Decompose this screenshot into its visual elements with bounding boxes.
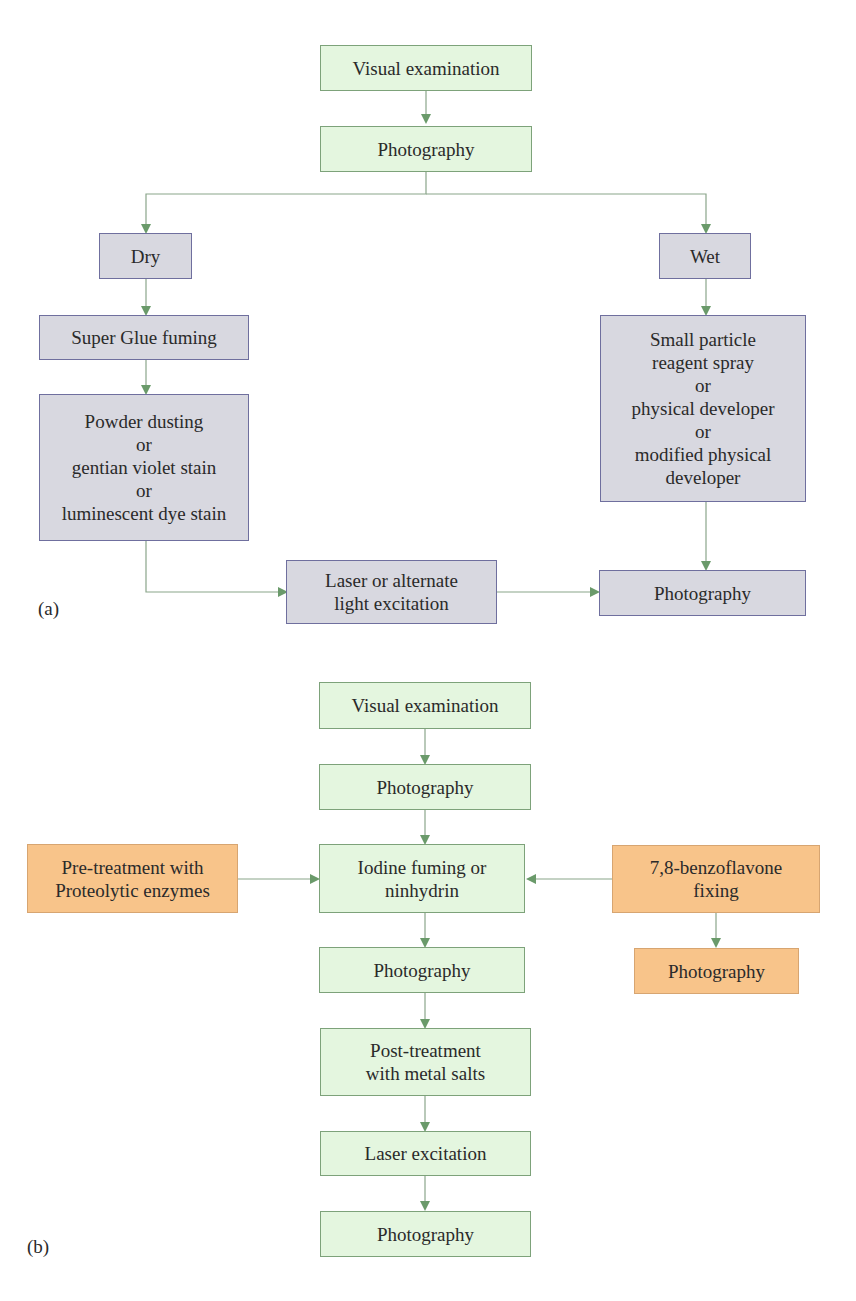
- node-post-treatment-metal-salts: Post-treatment with metal salts: [320, 1028, 531, 1096]
- panel-label-a: (a): [38, 598, 59, 620]
- node-wet: Wet: [659, 233, 751, 279]
- node-photography-orange: Photography: [634, 948, 799, 994]
- node-photography-a2: Photography: [599, 570, 806, 616]
- node-photography-b1: Photography: [319, 764, 531, 810]
- node-iodine-ninhydrin: Iodine fuming or ninhydrin: [319, 844, 525, 913]
- node-photography-b2: Photography: [319, 947, 525, 993]
- node-small-particle-reagent: Small particle reagent spray or physical…: [600, 315, 806, 502]
- node-photography-a1: Photography: [320, 126, 532, 172]
- node-laser-alternate-light: Laser or alternate light excitation: [286, 560, 497, 624]
- node-visual-examination-a: Visual examination: [320, 45, 532, 91]
- node-laser-excitation: Laser excitation: [320, 1131, 531, 1176]
- connectors: [0, 0, 856, 1301]
- node-benzoflavone-fixing: 7,8-benzoflavone fixing: [612, 845, 820, 913]
- panel-label-b: (b): [27, 1236, 49, 1258]
- node-pretreatment-proteolytic: Pre-treatment with Proteolytic enzymes: [27, 844, 238, 913]
- node-visual-examination-b: Visual examination: [319, 682, 531, 729]
- node-powder-dusting: Powder dusting or gentian violet stain o…: [39, 394, 249, 541]
- node-dry: Dry: [99, 233, 192, 279]
- node-super-glue-fuming: Super Glue fuming: [39, 315, 249, 360]
- node-photography-b3: Photography: [320, 1211, 531, 1257]
